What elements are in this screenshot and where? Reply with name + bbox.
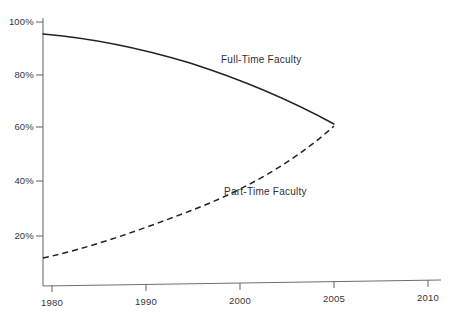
x-axis-line: [43, 280, 441, 286]
x-tick-label-1980: 1980: [29, 297, 75, 308]
x-tick-label-1990: 1990: [123, 296, 169, 307]
y-tick-label-60: 60%: [0, 121, 34, 132]
y-tick-label-100: 100%: [0, 16, 34, 27]
chart-plot-area: [0, 0, 449, 321]
y-tick-label-80: 80%: [0, 69, 34, 80]
series-line-full-time-faculty: [43, 34, 334, 124]
x-tick-label-2010: 2010: [405, 292, 449, 303]
y-tick-label-40: 40%: [0, 175, 34, 186]
x-tick-label-2000: 2000: [217, 295, 263, 306]
series-annotation-part-time-faculty: Part-Time Faculty: [224, 186, 307, 197]
chart-container: 100% 80% 60% 40% 20% 1980 1990 2000 2005…: [0, 0, 449, 321]
y-axis-ticks: [36, 22, 43, 236]
y-tick-label-20: 20%: [0, 230, 34, 241]
series-annotation-full-time-faculty: Full-Time Faculty: [221, 54, 302, 65]
x-axis-ticks: [52, 280, 428, 292]
x-tick-label-2005: 2005: [311, 293, 357, 304]
